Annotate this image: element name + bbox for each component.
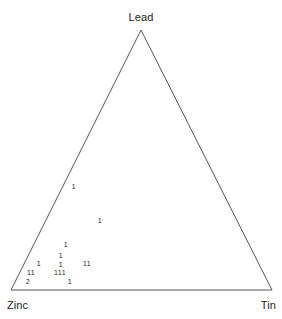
data-point-count: 11 (83, 260, 91, 268)
data-point-count: 1 (59, 261, 63, 269)
data-point-count: 1 (59, 252, 63, 260)
ternary-plot: Lead Zinc Tin 111111111111121 (0, 0, 282, 319)
data-point-count: 1 (98, 217, 102, 225)
data-point-count: 111 (54, 269, 66, 277)
data-point-count: 1 (68, 278, 72, 286)
data-point-count: 1 (72, 183, 76, 191)
data-point-count: 1 (64, 241, 68, 249)
data-point-count: 1 (37, 260, 41, 268)
data-point-count: 2 (26, 278, 30, 286)
data-point-layer: 111111111111121 (0, 0, 282, 319)
data-point-count: 11 (27, 269, 35, 277)
